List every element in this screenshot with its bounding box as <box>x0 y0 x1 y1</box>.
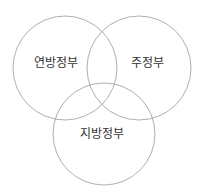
venn-diagram: 연방정부 주정부 지방정부 <box>0 0 203 195</box>
label-state-government: 주정부 <box>131 56 164 70</box>
label-local-government: 지방정부 <box>80 127 124 141</box>
label-federal-government: 연방정부 <box>34 56 78 70</box>
